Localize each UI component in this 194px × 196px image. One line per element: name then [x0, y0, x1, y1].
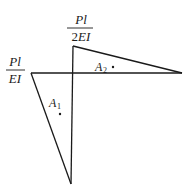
- top-moment-label: Pl 2EI: [67, 12, 93, 44]
- a1-centroid-dot: [59, 113, 61, 115]
- triangle-a1-hypotenuse: [31, 73, 71, 184]
- a2-centroid-dot: [112, 66, 114, 68]
- a2-subscript: 2: [103, 66, 107, 75]
- moment-diagram: Pl EI Pl 2EI A 2 A 1: [0, 0, 194, 196]
- a1-subscript: 1: [57, 102, 61, 111]
- triangle-a2-hypotenuse: [73, 46, 182, 73]
- area-a1-label: A 1: [48, 96, 61, 115]
- vertical-line: [71, 46, 73, 184]
- top-numerator: Pl: [74, 12, 87, 27]
- left-denominator: EI: [8, 71, 22, 86]
- a1-letter: A: [48, 96, 57, 110]
- left-numerator: Pl: [8, 54, 21, 69]
- top-denominator: 2EI: [72, 29, 91, 44]
- left-moment-label: Pl EI: [6, 54, 25, 86]
- a2-letter: A: [94, 60, 103, 74]
